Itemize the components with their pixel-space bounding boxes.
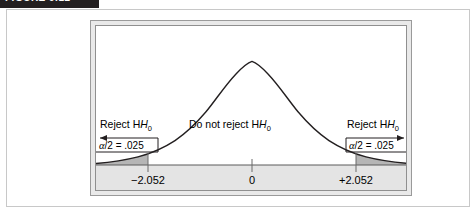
distribution-chart [96,26,407,191]
label-reject-right-sub: 0 [395,124,399,133]
label-do-not-reject: Do not reject HH0 [189,118,271,133]
label-reject-left-text: Reject H [100,118,140,130]
label-reject-right-text: Reject H [347,118,387,130]
figure-caption-text: FIGURE 9.12 [5,0,71,3]
label-alpha-left: α/2 = .025 [99,140,144,151]
alpha-left-rest: /2 = .025 [105,140,144,151]
label-alpha-right: α/2 = .025 [349,140,394,151]
right-reject-arrow-head [397,135,404,141]
label-reject-right: Reject HH0 [347,118,399,133]
axis-tick-label-center: 0 [222,174,282,186]
figure-caption-banner: FIGURE 9.12 [0,0,99,8]
alpha-right-rest: /2 = .025 [355,140,394,151]
label-do-not-reject-text: Do not reject H [189,118,259,130]
plot-area: Reject HH0 α/2 = .025 Do not reject HH0 … [95,25,407,191]
label-reject-left: Reject HH0 [100,118,152,133]
label-reject-left-sub: 0 [148,124,152,133]
axis-tick-label-lower: −2.052 [108,174,188,186]
label-do-not-reject-sub: 0 [267,124,271,133]
plot-frame: Reject HH0 α/2 = .025 Do not reject HH0 … [90,20,412,196]
axis-tick-label-upper: +2.052 [316,174,396,186]
